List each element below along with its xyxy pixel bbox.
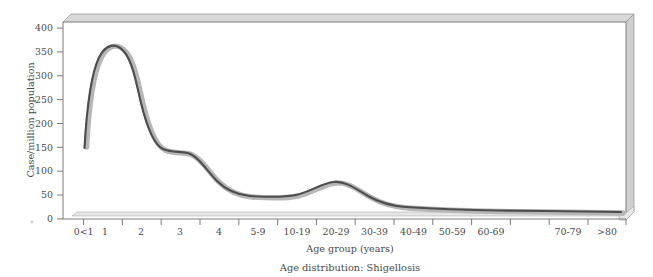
x-axis-tick-labels: 0<1 1 2 3 4 5-9 10-19 20-29 30-39 40-49 …	[74, 226, 617, 237]
y-tick-label: 150	[35, 142, 53, 153]
scan-speck	[31, 221, 34, 224]
x-tick-label: >80	[597, 226, 617, 237]
x-tick-label: 3	[177, 226, 183, 237]
x-tick-label: 60-69	[477, 226, 504, 237]
y-axis-ticks	[57, 28, 63, 219]
y-tick-label: 250	[35, 94, 53, 105]
chart-svg: 400 350 300 250 200 150 100 50 0 Case/mi…	[0, 0, 653, 277]
chart-figure: 400 350 300 250 200 150 100 50 0 Case/mi…	[0, 0, 653, 277]
y-axis-tick-labels: 400 350 300 250 200 150 100 50 0	[35, 22, 53, 224]
figure-caption: Age distribution: Shigellosis	[279, 262, 420, 273]
x-tick-label: 5-9	[250, 226, 265, 237]
x-tick-label: 0<1	[74, 226, 94, 237]
frame-right-slab	[626, 14, 634, 220]
y-tick-label: 300	[35, 70, 53, 81]
y-tick-label: 350	[35, 46, 53, 57]
y-tick-label: 50	[41, 189, 53, 200]
x-tick-label: 40-49	[400, 226, 427, 237]
y-tick-label: 100	[35, 165, 53, 176]
x-tick-label: 10-19	[283, 226, 310, 237]
y-tick-label: 400	[35, 22, 53, 33]
frame-top-slab	[63, 14, 634, 22]
x-axis-title: Age group (years)	[305, 243, 393, 254]
x-axis-ticks	[84, 219, 626, 225]
x-tick-label: 4	[216, 226, 222, 237]
y-tick-label: 200	[35, 118, 53, 129]
series-line	[85, 46, 622, 212]
x-tick-label: 50-59	[439, 226, 466, 237]
x-tick-label: 20-29	[322, 226, 349, 237]
x-tick-label: 1	[102, 226, 108, 237]
y-axis-title: Case/million population	[25, 62, 36, 177]
x-tick-label: 30-39	[361, 226, 388, 237]
x-tick-label: 2	[138, 226, 144, 237]
x-tick-label: 70-79	[554, 226, 581, 237]
data-series-shigellosis	[85, 46, 624, 213]
y-tick-label: 0	[47, 213, 53, 224]
